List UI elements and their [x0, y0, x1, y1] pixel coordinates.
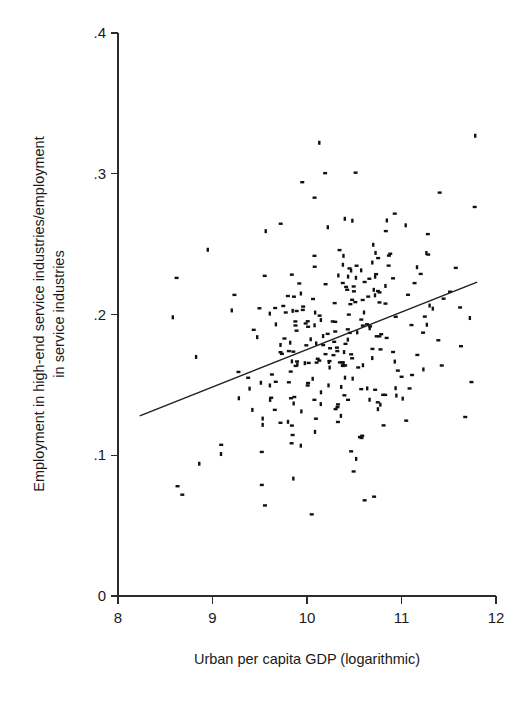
scatter-point: [307, 362, 311, 364]
scatter-point: [260, 451, 264, 453]
scatter-point: [295, 310, 299, 312]
scatter-point: [290, 424, 294, 426]
scatter-point: [220, 452, 222, 456]
scatter-point: [248, 387, 250, 391]
scatter-point: [263, 275, 267, 277]
scatter-point: [335, 346, 339, 348]
scatter-point: [260, 484, 264, 486]
scatter-point: [246, 377, 250, 379]
scatter-point: [231, 308, 233, 312]
scatter-point: [327, 225, 329, 229]
scatter-point: [442, 297, 446, 299]
scatter-point: [385, 337, 389, 339]
scatter-point: [260, 381, 262, 385]
x-tick-label: 12: [488, 609, 505, 626]
scatter-point: [371, 356, 373, 360]
scatter-point: [294, 365, 298, 367]
scatter-point: [328, 347, 332, 349]
scatter-point: [426, 233, 430, 235]
scatter-point: [270, 373, 274, 375]
scatter-point: [328, 366, 330, 370]
scatter-point: [180, 494, 184, 496]
scatter-point: [361, 299, 365, 301]
scatter-point: [293, 324, 297, 326]
scatter-point: [432, 307, 434, 311]
scatter-point: [348, 303, 352, 305]
y-tick-label: .2: [93, 306, 106, 323]
scatter-point: [331, 354, 335, 356]
scatter-point: [408, 387, 412, 389]
scatter-point: [341, 282, 345, 284]
scatter-point: [312, 255, 316, 257]
scatter-point: [320, 390, 322, 394]
scatter-point: [295, 360, 299, 362]
scatter-point: [300, 409, 302, 413]
scatter-point: [291, 350, 295, 352]
scatter-point: [252, 329, 256, 331]
scatter-point: [360, 437, 364, 439]
scatter-point: [333, 302, 337, 304]
scatter-point: [318, 314, 322, 316]
scatter-point: [349, 353, 353, 355]
scatter-point: [347, 338, 349, 342]
scatter-point: [384, 230, 388, 232]
scatter-point: [336, 421, 340, 423]
scatter-point: [469, 381, 473, 383]
scatter-point: [291, 359, 293, 363]
scatter-point: [304, 344, 308, 346]
scatter-point: [232, 294, 236, 296]
scatter-point: [374, 251, 376, 255]
scatter-point: [352, 290, 356, 292]
scatter-point: [238, 396, 240, 400]
scatter-point: [284, 311, 288, 313]
scatter-point: [349, 450, 353, 452]
scatter-point: [341, 365, 345, 367]
y-axis-title-line-1: Employment in high-end service industrie…: [31, 136, 47, 491]
scatter-point: [236, 371, 240, 373]
scatter-point: [416, 265, 418, 269]
scatter-point: [382, 424, 386, 426]
scatter-point: [300, 444, 302, 448]
x-axis-title: Urban per capita GDP (logarithmic): [194, 651, 420, 667]
y-tick-label: .4: [93, 24, 106, 41]
scatter-point: [301, 309, 305, 311]
scatter-point: [289, 341, 291, 345]
scatter-point: [327, 360, 331, 362]
scatter-point: [352, 470, 356, 472]
scatter-point: [383, 302, 387, 304]
scatter-point: [324, 283, 328, 285]
scatter-point: [269, 383, 271, 387]
scatter-point: [311, 298, 315, 300]
scatter-point: [391, 277, 395, 279]
scatter-point: [422, 367, 424, 371]
scatter-point: [394, 316, 398, 318]
scatter-point: [251, 408, 253, 412]
scatter-point: [292, 401, 294, 405]
scatter-point: [344, 217, 346, 221]
scatter-point: [360, 268, 362, 272]
scatter-point: [353, 301, 357, 303]
scatter-point: [340, 361, 344, 363]
scatter-point: [281, 305, 285, 307]
scatter-point: [363, 499, 367, 501]
scatter-point: [337, 273, 339, 277]
scatter-point: [313, 196, 317, 198]
scatter-point: [394, 386, 396, 390]
scatter-point: [287, 350, 291, 352]
scatter-point: [306, 382, 310, 384]
scatter-point: [440, 364, 444, 366]
scatter-point: [409, 324, 413, 326]
scatter-point: [320, 318, 322, 322]
scatter-point: [454, 267, 458, 269]
scatter-point: [318, 141, 320, 145]
x-tick-label: 11: [394, 609, 410, 626]
scatter-point: [257, 307, 261, 309]
scatter-point: [326, 333, 330, 335]
scatter-point: [293, 320, 297, 322]
scatter-point: [367, 278, 371, 280]
x-tick-label: 10: [299, 609, 316, 626]
scatter-point: [334, 408, 338, 410]
scatter-point: [265, 229, 267, 233]
scatter-point: [279, 343, 281, 347]
scatter-point: [323, 172, 327, 174]
